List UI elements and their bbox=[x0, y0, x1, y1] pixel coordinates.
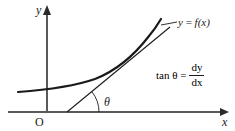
curve-label-leader-line bbox=[161, 22, 177, 25]
curve-label-equals: = bbox=[183, 16, 195, 28]
formula-numerator: dy bbox=[189, 62, 204, 75]
formula-fraction: dy dx bbox=[189, 62, 204, 88]
tangent-line bbox=[67, 27, 170, 112]
theta-angle-arc bbox=[92, 92, 99, 112]
x-axis-label: x bbox=[222, 116, 227, 128]
derivative-diagram-figure: y x O θ y = f(x) tan θ = dy dx bbox=[0, 0, 235, 131]
derivative-formula: tan θ = dy dx bbox=[156, 62, 204, 88]
formula-denominator: dx bbox=[189, 76, 204, 89]
y-axis-arrowhead-icon bbox=[43, 5, 51, 15]
y-axis-label: y bbox=[36, 4, 41, 16]
curve-equation-label: y = f(x) bbox=[178, 17, 210, 28]
function-curve bbox=[18, 19, 161, 92]
theta-angle-label: θ bbox=[104, 96, 110, 108]
formula-left-hand-side: tan θ = bbox=[156, 69, 189, 81]
curve-label-arg: (x) bbox=[198, 16, 210, 28]
origin-label: O bbox=[35, 116, 44, 128]
